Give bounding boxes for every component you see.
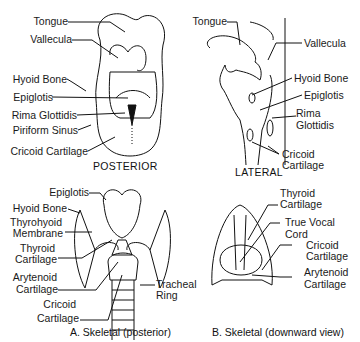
skeletal-downward-drawing [212,205,292,285]
posterior-view-title: POSTERIOR [93,160,158,172]
lateral-label-hyoid-bone: Hyoid Bone [294,73,348,84]
skeletal-a-label-ring: Ring [156,290,178,301]
posterior-label-vallecula: Vallecula [0,34,72,45]
skeletal-b-label-cricoid-cartilage: Cartilage [306,251,348,262]
skeletal-b-label-arytenoid-cartilage: Cartilage [304,279,346,290]
skeletal-a-label-cricoid: Cricoid [0,299,76,310]
lateral-label-cartilage: Cartilage [282,160,324,171]
skeletal-b-label-arytenoid: Arytenoid [304,267,348,278]
posterior-label-cricoid-cartilage: Cricoid Cartilage [0,146,88,157]
lateral-larynx-drawing [207,18,302,165]
skeletal-a-label-epiglotis: Epiglotis [0,187,89,198]
lateral-view-title: LATERAL [235,166,283,178]
skeletal-a-label-thyroid-cartilage: Cartilage [0,254,57,265]
posterior-label-epiglotis: Epiglotis [0,92,53,103]
skeletal-a-label-cricoid-cartilage: Cartilage [0,313,79,324]
skeletal-b-label-cord: Cord [285,229,308,240]
caption-skeletal-downward: B. Skeletal (downward view) [212,326,344,338]
skeletal-a-label-membrane: Membrane [0,228,63,239]
lateral-label-epiglotis: Epiglotis [304,90,344,101]
skeletal-b-label-thyroid-cartilage: Cartilage [280,199,322,210]
caption-skeletal-posterior: A. Skeletal (posterior) [70,326,171,338]
lateral-label-rima: Rima [296,108,321,119]
lateral-label-glottidis: Glottidis [296,120,334,131]
posterior-label-tongue: Tongue [0,16,68,27]
skeletal-a-label-hyoid-bone: Hyoid Bone [0,203,67,214]
posterior-label-piriform-sinus: Piriform Sinus [0,125,78,136]
skeletal-a-label-arytenoid-cartilage: Cartilage [0,284,58,295]
posterior-label-rima-glottidis: Rima Glottidis [0,110,77,121]
skeletal-b-label-true-vocal: True Vocal [285,217,335,228]
posterior-label-hyoid-bone: Hyoid Bone [0,74,67,85]
lateral-label-tongue: Tongue [180,16,227,27]
skeletal-a-label-arytenoid: Arytenoid [0,272,57,283]
lateral-label-vallecula: Vallecula [304,38,346,49]
